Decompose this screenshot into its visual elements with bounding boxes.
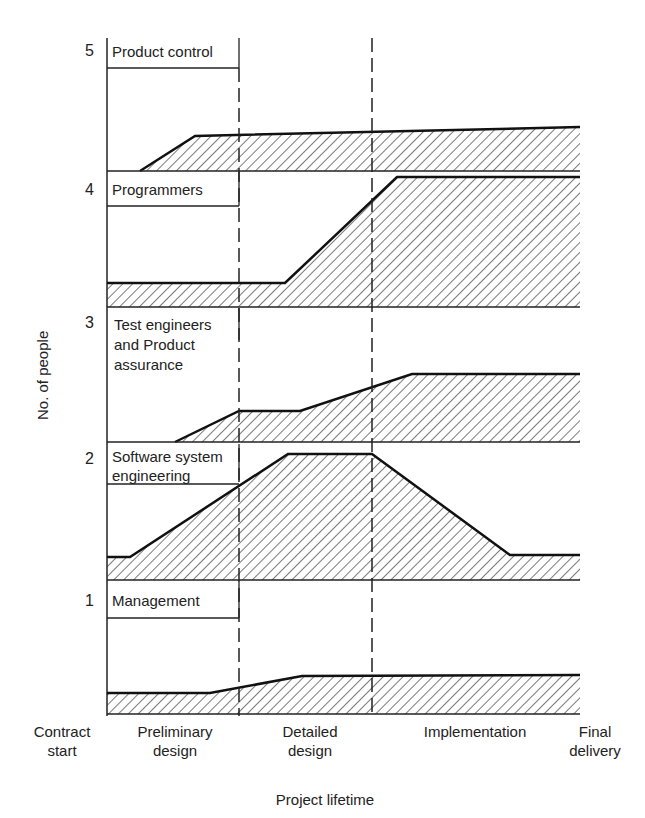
x-label-preliminary: Preliminarydesign — [120, 722, 230, 760]
band-product-control — [107, 127, 580, 171]
label-test-3: assurance — [114, 355, 183, 374]
y-tick-3: 3 — [85, 314, 94, 332]
x-label-detailed: Detaileddesign — [270, 722, 350, 760]
x-label-contract-start: Contractstart — [30, 722, 94, 760]
label-sse-2: engineering — [112, 466, 190, 485]
y-tick-1: 1 — [85, 592, 94, 610]
x-label-final-delivery: Finaldelivery — [560, 722, 630, 760]
x-axis-title: Project lifetime — [250, 790, 400, 809]
label-product-control: Product control — [112, 42, 213, 61]
y-tick-4: 4 — [85, 181, 94, 199]
y-tick-2: 2 — [85, 450, 94, 468]
label-test-2: and Product — [114, 335, 195, 354]
label-test-1: Test engineers — [114, 315, 212, 334]
x-label-implementation: Implementation — [410, 722, 540, 741]
label-sse-1: Software system — [112, 447, 223, 466]
label-programmers: Programmers — [112, 180, 203, 199]
label-management: Management — [112, 591, 200, 610]
band-test-engineers — [107, 374, 580, 442]
y-tick-5: 5 — [85, 42, 94, 60]
y-axis-title: No. of people — [34, 331, 51, 420]
staffing-diagram — [0, 0, 645, 818]
band-management — [107, 675, 580, 714]
